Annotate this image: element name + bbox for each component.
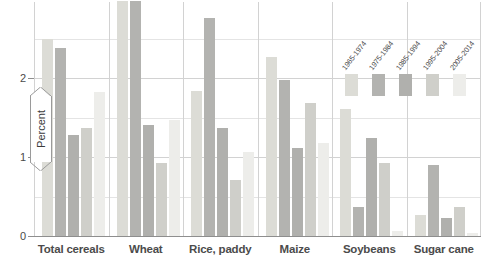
bar	[353, 207, 364, 236]
bar	[191, 91, 202, 236]
bar	[117, 1, 128, 236]
gridline-y-0	[34, 236, 481, 237]
bar	[204, 18, 215, 236]
bar	[81, 128, 92, 236]
bar	[428, 165, 439, 236]
y-tick-label-2: 2	[0, 72, 26, 84]
bar-group-3	[266, 2, 331, 236]
bar	[441, 218, 452, 236]
bar	[156, 163, 167, 236]
y-axis-title: Percent	[35, 110, 47, 148]
x-axis-label-2: Rice, paddy	[189, 243, 251, 255]
legend-swatch-3	[426, 74, 439, 96]
x-axis-label-0: Total cereals	[38, 243, 105, 255]
legend-item-0[interactable]: 1965-1974	[345, 0, 358, 96]
bar	[340, 109, 351, 236]
banner-chevron-top-icon	[30, 87, 51, 96]
bar	[392, 231, 403, 236]
legend-label-3: 1995-2004	[421, 39, 449, 72]
bar	[318, 143, 329, 236]
legend-label-1: 1975-1984	[367, 39, 395, 72]
bar	[366, 138, 377, 236]
legend-item-4[interactable]: 2005-2014	[453, 0, 466, 96]
group-separator-1	[109, 2, 110, 236]
y-tick-label-0: 0	[0, 230, 26, 242]
x-axis-label-3: Maize	[280, 243, 310, 255]
legend-item-2[interactable]: 1985-1994	[399, 0, 412, 96]
y-axis-title-banner: Percent	[30, 96, 52, 162]
bar-chart: 0 1 2 Percent 1965-19741975-19841985-199…	[0, 0, 487, 266]
legend-item-3[interactable]: 1995-2004	[426, 0, 439, 96]
bar-group-1	[117, 2, 182, 236]
bar	[169, 120, 180, 236]
legend-swatch-2	[399, 74, 412, 96]
y-tick-label-1: 1	[0, 151, 26, 163]
x-axis-label-1: Wheat	[129, 243, 163, 255]
bar	[130, 1, 141, 236]
bar	[292, 148, 303, 236]
bar-group-2	[191, 2, 256, 236]
x-axis-label-4: Soybeans	[343, 243, 396, 255]
group-separator-2	[183, 2, 184, 236]
bar	[243, 152, 254, 236]
legend-swatch-4	[453, 74, 466, 96]
banner-chevron-bottom-icon	[30, 162, 51, 171]
legend-swatch-1	[372, 74, 385, 96]
bar	[467, 233, 478, 236]
bar	[68, 135, 79, 236]
bar	[415, 215, 426, 236]
bar	[379, 163, 390, 236]
legend-label-2: 1985-1994	[394, 39, 422, 72]
bar	[217, 128, 228, 236]
bar	[454, 207, 465, 236]
x-axis-label-5: Sugar cane	[414, 243, 474, 255]
legend-label-4: 2005-2014	[448, 39, 476, 72]
legend-item-1[interactable]: 1975-1984	[372, 0, 385, 96]
group-separator-3	[258, 2, 259, 236]
bar	[305, 103, 316, 236]
bar	[266, 57, 277, 236]
bar	[279, 80, 290, 236]
bar	[143, 125, 154, 236]
legend-label-0: 1965-1974	[340, 39, 368, 72]
bar	[230, 180, 241, 236]
group-separator-4	[332, 2, 333, 236]
chart-legend: 1965-19741975-19841985-19941995-20042005…	[345, 0, 487, 96]
legend-swatch-0	[345, 74, 358, 96]
bar	[94, 92, 105, 236]
bar	[55, 48, 66, 236]
